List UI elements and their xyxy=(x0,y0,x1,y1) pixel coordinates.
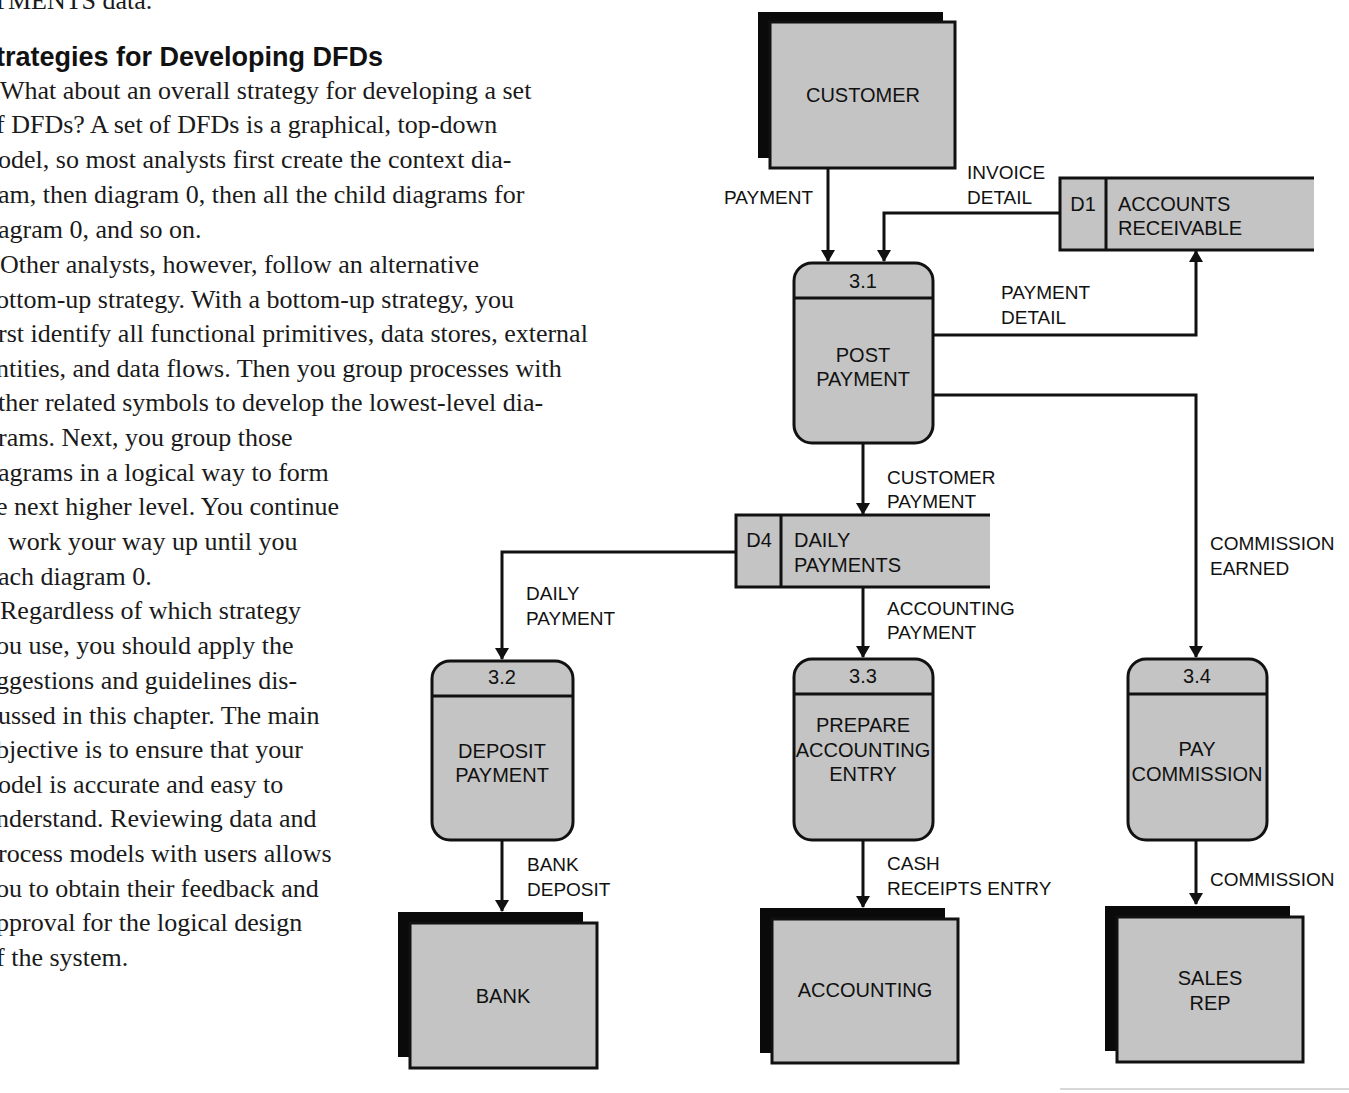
process-label-line: COMMISSION xyxy=(1131,763,1262,785)
entity-label-line: SALES xyxy=(1178,967,1242,989)
process-3-3: 3.3 PREPARE ACCOUNTING ENTRY xyxy=(794,659,933,840)
flow-label: DETAIL xyxy=(967,187,1032,208)
flow-label: DETAIL xyxy=(1001,307,1066,328)
data-store-d1: D1 ACCOUNTS RECEIVABLE xyxy=(1060,178,1314,250)
process-label-line: POST xyxy=(836,344,890,366)
store-label-line: PAYMENTS xyxy=(794,554,901,576)
process-label-line: PAYMENT xyxy=(455,764,549,786)
flow-label: COMMISSION xyxy=(1210,533,1335,554)
flow-label: RECEIPTS ENTRY xyxy=(887,878,1052,899)
entity-label: ACCOUNTING xyxy=(798,979,932,1001)
flow-invoice-detail xyxy=(884,213,1060,261)
entity-label-line: REP xyxy=(1189,992,1230,1014)
process-label-line: ENTRY xyxy=(829,763,896,785)
process-label-line: PAY xyxy=(1178,738,1215,760)
process-id: 3.1 xyxy=(849,270,877,292)
flow-label: DAILY xyxy=(526,583,580,604)
flow-label: CASH xyxy=(887,853,940,874)
process-3-4: 3.4 PAY COMMISSION xyxy=(1128,659,1267,840)
data-store-d4: D4 DAILY PAYMENTS xyxy=(736,515,990,587)
entity-bank: BANK xyxy=(398,912,597,1068)
flow-label: BANK xyxy=(527,854,579,875)
process-label-line: ACCOUNTING xyxy=(796,739,930,761)
flow-label: ACCOUNTING xyxy=(887,598,1015,619)
entity-sales-rep: SALES REP xyxy=(1105,906,1303,1062)
entity-customer: CUSTOMER xyxy=(758,12,955,168)
data-flow-diagram: CUSTOMER D1 ACCOUNTS RECEIVABLE 3.1 POST… xyxy=(0,0,1349,1093)
entity-accounting: ACCOUNTING xyxy=(760,908,958,1063)
store-id: D1 xyxy=(1070,193,1096,215)
process-label-line: PAYMENT xyxy=(816,368,910,390)
flow-label: DEPOSIT xyxy=(527,879,611,900)
process-3-1: 3.1 POST PAYMENT xyxy=(794,263,933,443)
flow-label: CUSTOMER xyxy=(887,467,995,488)
flow-label: INVOICE xyxy=(967,162,1045,183)
process-id: 3.2 xyxy=(488,666,516,688)
entity-label: CUSTOMER xyxy=(806,84,920,106)
flow-label: PAYMENT xyxy=(526,608,615,629)
flow-label: PAYMENT xyxy=(887,622,976,643)
store-label-line: DAILY xyxy=(794,529,850,551)
flow-daily-payment xyxy=(502,552,736,659)
store-label-line: RECEIVABLE xyxy=(1118,217,1242,239)
process-label-line: PREPARE xyxy=(816,714,910,736)
entity-label: BANK xyxy=(476,985,531,1007)
flow-label: COMMISSION xyxy=(1210,869,1335,890)
process-id: 3.3 xyxy=(849,665,877,687)
process-3-2: 3.2 DEPOSIT PAYMENT xyxy=(432,661,573,840)
store-label-line: ACCOUNTS xyxy=(1118,193,1230,215)
flow-label: PAYMENT xyxy=(724,187,813,208)
store-id: D4 xyxy=(746,529,772,551)
flow-label: PAYMENT xyxy=(887,491,976,512)
process-id: 3.4 xyxy=(1183,665,1211,687)
flow-label: PAYMENT xyxy=(1001,282,1090,303)
flow-label: EARNED xyxy=(1210,558,1289,579)
process-label-line: DEPOSIT xyxy=(458,740,546,762)
